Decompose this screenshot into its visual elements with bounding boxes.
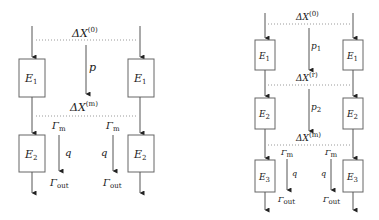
r-delta-xm-label: ΔX(m): [295, 131, 321, 143]
gamma-out-left: Γout: [49, 177, 69, 190]
right-diagram: E1 E2 E3 E1 E2 E3 ΔX(0) p1 ΔX(r) p2 ΔX(m…: [255, 10, 363, 210]
r-gamma-out-right: Γout: [322, 195, 340, 206]
r-delta-x0-label: ΔX(0): [295, 10, 319, 22]
p1-label: p1: [311, 41, 321, 53]
r-delta-xr-label: ΔX(r): [295, 71, 318, 83]
q-label-right: q: [101, 147, 107, 158]
delta-xm-label: ΔX(m): [69, 100, 98, 114]
r-q-label-left: q: [292, 169, 297, 178]
left-diagram: E1 E2 E1 E2 ΔX(0) p ΔX(m) Γm Γm q q Γout…: [19, 26, 154, 193]
delta-x0-label: ΔX(0): [71, 26, 98, 40]
r-gamma-m-left: Γm: [280, 148, 294, 159]
diagram-canvas: E1 E2 E1 E2 ΔX(0) p ΔX(m) Γm Γm q q Γout…: [0, 0, 379, 220]
p2-label: p2: [311, 102, 321, 114]
r-gamma-out-left: Γout: [277, 195, 295, 206]
gamma-out-right: Γout: [102, 177, 122, 190]
p-label: p: [89, 61, 96, 74]
gamma-m-right: Γm: [105, 120, 120, 133]
r-q-label-right: q: [321, 169, 326, 178]
q-label-left: q: [65, 147, 71, 158]
gamma-m-left: Γm: [51, 120, 66, 133]
r-gamma-m-right: Γm: [324, 148, 338, 159]
